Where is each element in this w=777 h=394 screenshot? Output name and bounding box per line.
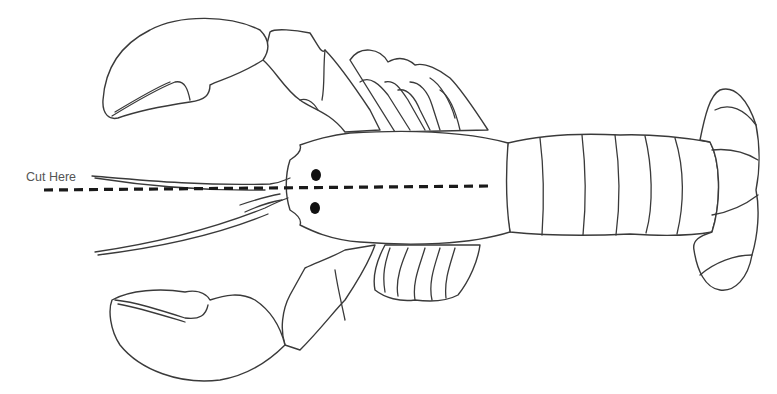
lobster-drawing [0,0,777,394]
left-eye-icon [311,169,321,181]
tail [505,89,759,290]
lobster-diagram: Cut Here [0,0,777,394]
lower-claw [110,245,375,381]
upper-claw [103,18,380,132]
lower-walking-legs [374,245,480,301]
right-eye-icon [310,202,320,214]
cut-here-label: Cut Here [26,170,76,184]
